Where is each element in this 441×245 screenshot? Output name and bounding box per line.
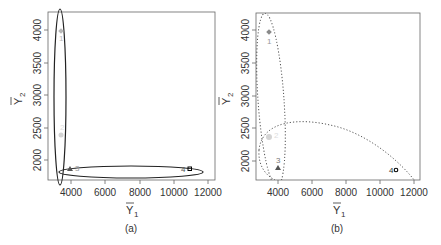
y-label-main: Y [220,97,232,105]
y-tick-label: 4000 [240,18,251,41]
x-label-sub: 1 [134,210,139,219]
y-tick-label: 2000 [32,148,43,171]
chart-svg: 4000 6000 8000 10000 12000 2000 2500 300… [0,0,441,245]
point-label: 3 [75,164,80,173]
x-tick-label: 6000 [94,187,117,198]
x-tick-labels-a: 4000 6000 8000 10000 12000 [60,187,222,198]
x-tick-label: 12000 [194,187,222,198]
point-label: 1 [267,37,272,46]
x-tick-label: 8000 [129,187,152,198]
figure: 4000 6000 8000 10000 12000 2000 2500 300… [0,0,441,245]
panel-a: 4000 6000 8000 10000 12000 2000 2500 300… [11,9,222,234]
x-axis-label-b: Y 1 [333,203,346,219]
x-tick-labels-b: 4000 6000 8000 10000 12000 [267,187,428,198]
x-tick-label: 4000 [60,187,83,198]
point-label: 4 [389,166,394,175]
plot-frame-a [48,12,215,180]
ellipse-horizontal-b [259,122,418,185]
ellipse-horizontal-b-lower [259,150,275,180]
point-1-a: 1 [58,28,64,43]
x-tick-label: 10000 [366,187,394,198]
x-tick-label: 8000 [335,187,358,198]
y-tick-label: 2500 [240,116,251,139]
panel-caption-a: (a) [125,223,137,234]
x-label-main: Y [333,204,341,216]
y-tick-label: 3500 [240,51,251,74]
panel-b: 4000 6000 8000 10000 12000 2000 2500 300… [219,12,428,234]
point-label: 2 [274,131,279,140]
point-label: 4 [181,165,186,174]
x-tick-label: 6000 [301,187,324,198]
y-label-sub: 2 [226,92,235,97]
x-label-sub: 1 [341,210,346,219]
x-axis-b [278,180,414,184]
x-axis-a [71,180,208,184]
plot-frame-b [256,13,420,180]
y-axis-a [44,30,48,160]
point-3-b: 3 [275,156,281,170]
y-tick-label: 3000 [240,84,251,107]
x-tick-label: 4000 [267,187,290,198]
x-tick-label: 12000 [400,187,428,198]
x-tick-label: 10000 [160,187,188,198]
y-axis-b [252,30,256,161]
y-tick-label: 3000 [32,83,43,106]
y-label-main: Y [12,97,24,105]
x-label-main: Y [126,204,134,216]
y-label-sub: 2 [18,92,27,97]
y-tick-labels-a: 2000 2500 3000 3500 4000 [32,18,43,171]
point-label: 2 [60,123,65,132]
point-4-a: 4 [181,165,192,174]
point-label: 1 [59,34,64,43]
y-tick-label: 3500 [32,51,43,74]
panel-caption-b: (b) [331,223,343,234]
point-2-a: 2 [59,123,66,138]
y-tick-label: 2000 [240,149,251,172]
point-label: 3 [276,156,281,165]
y-tick-label: 2500 [32,116,43,139]
x-axis-label-a: Y 1 [126,203,139,219]
y-axis-label-b: Y 2 [219,92,235,105]
y-axis-label-a: Y 2 [11,92,27,105]
y-tick-label: 4000 [32,18,43,41]
point-1-b: 1 [266,29,272,46]
point-4-b: 4 [389,166,398,175]
y-tick-labels-b: 2000 2500 3000 3500 4000 [240,18,251,172]
